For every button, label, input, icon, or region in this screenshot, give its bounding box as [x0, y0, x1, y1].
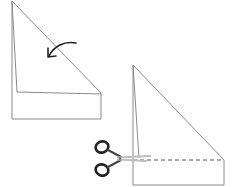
step-1-figure — [12, 1, 101, 119]
folding-diagram — [0, 0, 232, 187]
inner-edge-line — [12, 1, 17, 92]
scissors-icon — [94, 140, 150, 178]
diagram-canvas — [0, 0, 232, 187]
flap-bottom-line — [17, 92, 101, 94]
step-2-figure — [94, 65, 224, 185]
curved-fold-arrow-icon — [48, 43, 76, 57]
inner-edge-line-2 — [133, 65, 139, 158]
fold-hypotenuse-line-2 — [133, 65, 224, 160]
